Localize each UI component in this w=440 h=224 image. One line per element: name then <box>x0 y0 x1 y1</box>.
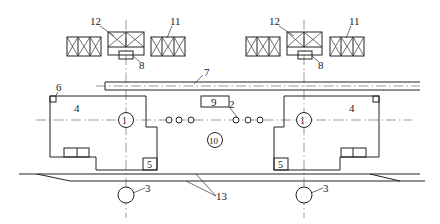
label-3-right: 3 <box>323 182 329 194</box>
label-9: 9 <box>211 96 217 108</box>
label-11-left: 11 <box>170 15 181 27</box>
label-11-right: 11 <box>349 15 360 27</box>
label-7: 7 <box>204 66 210 78</box>
label-4-left: 4 <box>74 102 80 114</box>
label-8-left: 8 <box>139 59 145 71</box>
left-bin-group <box>67 32 185 59</box>
label-2: 2 <box>229 98 235 110</box>
label-1-left: 1 <box>122 115 127 126</box>
label-5-left: 5 <box>147 159 152 170</box>
layout-diagram: 12 11 8 12 11 8 7 6 4 4 9 2 1 1 10 5 5 3… <box>0 0 440 224</box>
conveyor <box>96 82 420 90</box>
label-12-left: 12 <box>90 15 101 27</box>
label-5-right: 5 <box>278 159 283 170</box>
right-machine-body <box>274 96 379 170</box>
left-machine-body <box>50 96 157 170</box>
label-1-right: 1 <box>300 115 305 126</box>
label-6: 6 <box>56 81 62 93</box>
right-bin-group <box>246 32 364 59</box>
label-3-left: 3 <box>145 182 151 194</box>
label-8-right: 8 <box>318 59 324 71</box>
label-12-right: 12 <box>269 15 280 27</box>
label-13: 13 <box>216 190 228 202</box>
label-4-right: 4 <box>349 102 355 114</box>
label-10: 10 <box>209 136 219 146</box>
right-lower-circle-3 <box>296 187 312 203</box>
left-lower-circle-3 <box>118 187 134 203</box>
